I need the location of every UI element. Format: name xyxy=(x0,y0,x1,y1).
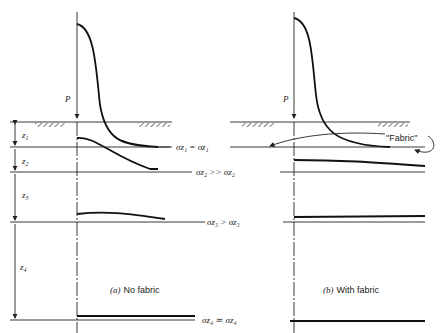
caption-b: (b)With fabric xyxy=(323,285,380,295)
layer-label-z2: z2 xyxy=(21,156,29,167)
ground-hatch-left-b xyxy=(242,123,274,127)
layer-label-z1: z1 xyxy=(21,130,29,141)
fabric-pointer-arrow xyxy=(270,133,385,146)
panel-b-with-fabric: P "Fabric" (b)With fabric xyxy=(230,12,434,333)
panel-a-no-fabric: P z1 z2 z3 z4 σz₁ = σz₁ σz₂ >> σz₂ σz₃ > xyxy=(10,12,240,333)
ground-hatch-left-a xyxy=(35,123,65,127)
ground-hatch-right-a xyxy=(138,123,170,127)
fabric-curl-arrow xyxy=(415,136,434,152)
surface-stress-curve-a xyxy=(77,24,158,147)
surface-stress-curve-b xyxy=(294,18,390,147)
relation-label-z2: σz₂ >> σz₂ xyxy=(196,167,235,177)
stress-curve-z2-b xyxy=(294,160,425,166)
layer-label-z3: z3 xyxy=(21,190,29,201)
load-label-b: P xyxy=(282,94,289,104)
stress-curve-z3-b xyxy=(294,216,425,217)
relation-label-z1: σz₁ = σz₁ xyxy=(176,142,209,152)
caption-a: (a)No fabric xyxy=(110,285,160,295)
stress-distribution-diagram: P z1 z2 z3 z4 σz₁ = σz₁ σz₂ >> σz₂ σz₃ > xyxy=(0,0,443,333)
load-label-a: P xyxy=(64,94,71,104)
ground-hatch-right-b xyxy=(378,123,408,127)
stress-curve-z3-a xyxy=(77,213,165,219)
layer-label-z4: z4 xyxy=(19,262,27,273)
stress-curve-z2-a xyxy=(77,138,158,169)
fabric-label: "Fabric" xyxy=(386,133,417,143)
relation-label-z4: σz₄ ≃ σz₄ xyxy=(202,315,237,325)
relation-label-z3: σz₃ > σz₃ xyxy=(207,217,240,227)
